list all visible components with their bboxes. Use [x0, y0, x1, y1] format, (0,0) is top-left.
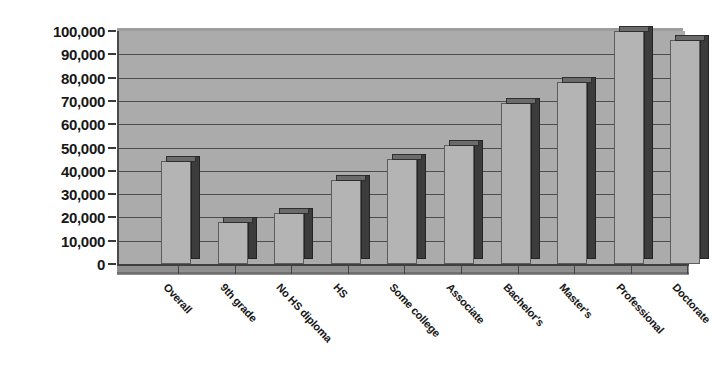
bar-top-face	[223, 217, 253, 223]
bar-front-face	[274, 213, 304, 264]
bar-front-face	[331, 180, 361, 264]
bar-side-face	[531, 98, 540, 259]
bar-front-face	[444, 145, 474, 264]
bar-side-face	[474, 140, 483, 259]
y-axis-tick-mark	[108, 30, 116, 32]
bar-front-face	[614, 31, 644, 264]
x-axis-category-label: Doctorate	[671, 281, 712, 325]
gridline	[119, 148, 685, 149]
x-axis-tick-mark	[687, 265, 688, 274]
gridline	[119, 78, 685, 79]
bar-top-face	[166, 156, 196, 162]
x-axis-category-label: Bachelor's	[501, 281, 546, 329]
bar-top-face	[675, 35, 705, 41]
y-axis-tick-label: 90,000	[61, 46, 105, 63]
bar-top-face	[449, 140, 479, 146]
gridline	[119, 124, 685, 125]
gridline	[119, 101, 685, 102]
chart-floor-edge	[117, 272, 689, 274]
y-axis-tick-mark	[108, 263, 116, 265]
bar-chart: 100,00090,00080,00070,00060,00050,00040,…	[0, 0, 712, 382]
bar-side-face	[644, 26, 653, 259]
x-axis-tick-mark	[461, 265, 462, 274]
y-axis-tick-mark	[108, 216, 116, 218]
x-axis-tick-mark	[518, 265, 519, 274]
bar-top-face	[562, 77, 592, 83]
y-axis-tick-mark	[108, 77, 116, 79]
y-axis-tick-label: 50,000	[61, 139, 105, 156]
x-axis-category-label: Overall	[161, 281, 194, 315]
y-axis-tick-label: 30,000	[61, 186, 105, 203]
y-axis-tick-label: 70,000	[61, 92, 105, 109]
bar-front-face	[501, 103, 531, 264]
x-axis-tick-mark	[574, 265, 575, 274]
bar-side-face	[417, 154, 426, 259]
y-axis-tick-mark	[108, 147, 116, 149]
x-axis-category-label: Professional	[614, 281, 666, 336]
x-axis-category-label: Master's	[557, 281, 595, 320]
bar-front-face	[161, 161, 191, 264]
x-axis-category-label: No HS diploma	[274, 281, 334, 344]
x-axis-tick-mark	[631, 265, 632, 274]
x-axis-category-label: Some college	[388, 281, 444, 339]
bar-front-face	[557, 82, 587, 264]
y-axis-tick-label: 0	[97, 256, 105, 273]
plot-area	[117, 31, 685, 264]
x-axis-category-label: HS	[331, 281, 350, 300]
bar-side-face	[191, 156, 200, 259]
bar-top-face	[506, 98, 536, 104]
bar-front-face	[387, 159, 417, 264]
y-axis-tick-label: 40,000	[61, 162, 105, 179]
x-axis-tick-mark	[404, 265, 405, 274]
y-axis-tick-mark	[108, 170, 116, 172]
bar-side-face	[304, 208, 313, 259]
y-axis-tick-mark	[108, 240, 116, 242]
x-axis-category-label: Associate	[444, 281, 487, 326]
x-axis-category-label: 9th grade	[218, 281, 259, 324]
gridline	[119, 54, 685, 55]
bar-front-face	[670, 40, 700, 264]
bar-front-face	[218, 222, 248, 264]
y-axis-tick-label: 20,000	[61, 209, 105, 226]
bar-side-face	[361, 175, 370, 259]
y-axis-tick-mark	[108, 193, 116, 195]
bar-side-face	[248, 217, 257, 259]
y-axis-tick-mark	[108, 100, 116, 102]
bar-side-face	[587, 77, 596, 259]
bar-side-face	[700, 35, 709, 259]
y-axis-tick-mark	[108, 53, 116, 55]
y-axis-tick-label: 100,000	[53, 23, 105, 40]
y-axis-tick-label: 60,000	[61, 116, 105, 133]
y-axis-tick-label: 80,000	[61, 69, 105, 86]
bar-top-face	[619, 26, 649, 32]
bar-top-face	[392, 154, 422, 160]
x-axis-tick-mark	[291, 265, 292, 274]
bar-top-face	[336, 175, 366, 181]
x-axis-tick-mark	[178, 265, 179, 274]
y-axis-tick-label: 10,000	[61, 232, 105, 249]
x-axis-tick-mark	[348, 265, 349, 274]
y-axis-tick-mark	[108, 123, 116, 125]
bar-top-face	[279, 208, 309, 214]
x-axis-tick-mark	[235, 265, 236, 274]
